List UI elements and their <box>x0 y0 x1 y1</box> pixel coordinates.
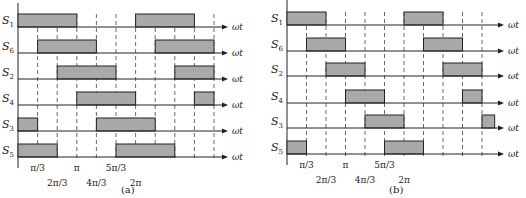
phase-tick-label: 2π/3 <box>47 178 68 188</box>
conduction-pulse <box>175 66 214 79</box>
arrow-icon <box>498 101 504 106</box>
conduction-pulse <box>482 115 495 128</box>
waveform-row-s4: ωtS4 <box>2 92 243 110</box>
switch-label: S3 <box>271 115 283 130</box>
conduction-pulse <box>18 144 57 157</box>
switch-label: S4 <box>271 90 284 105</box>
arrow-icon <box>498 126 504 131</box>
conduction-pulse <box>116 144 175 157</box>
omega-t-label: ωt <box>508 46 519 56</box>
panel-b-120-degree-conduction: ωtS1ωtS6ωtS2ωtS4ωtS3ωtS5π/32π/3π4π/35π/3… <box>271 0 519 195</box>
conduction-pulse <box>57 66 116 79</box>
omega-t-label: ωt <box>508 149 519 159</box>
phase-tick-label: π/3 <box>30 163 45 173</box>
omega-t-label: ωt <box>508 71 519 81</box>
switch-label: S6 <box>2 40 15 55</box>
conduction-pulse <box>326 63 365 76</box>
panel-caption: (b) <box>389 184 403 195</box>
conduction-pulse <box>287 12 326 25</box>
omega-t-label: ωt <box>508 123 519 133</box>
conduction-pulse <box>194 92 214 105</box>
switch-label: S1 <box>2 14 14 29</box>
waveform-row-s3: ωtS3 <box>2 118 243 136</box>
arrow-icon <box>222 25 228 30</box>
conduction-pulse <box>136 14 195 27</box>
omega-t-label: ωt <box>508 20 519 30</box>
switch-label: S6 <box>271 38 284 53</box>
conduction-pulse <box>443 63 482 76</box>
conduction-pulse <box>287 141 307 154</box>
panel-a-180-degree-conduction: ωtS1ωtS6ωtS2ωtS4ωtS3ωtS5π/32π/3π4π/35π/3… <box>2 3 243 195</box>
conduction-pulse <box>463 90 483 103</box>
switch-label: S2 <box>271 63 283 78</box>
switch-label: S4 <box>2 92 15 107</box>
arrow-icon <box>498 152 504 157</box>
arrow-icon <box>498 74 504 79</box>
conduction-pulse <box>18 14 77 27</box>
omega-t-label: ωt <box>232 152 243 162</box>
conduction-pulse <box>424 38 463 51</box>
omega-t-label: ωt <box>232 22 243 32</box>
conduction-pulse <box>96 118 155 131</box>
waveform-row-s5: ωtS5 <box>2 144 243 162</box>
phase-tick-label: π <box>74 163 80 173</box>
waveform-row-s1: ωtS1 <box>2 14 243 32</box>
conduction-pulse <box>365 115 404 128</box>
phase-tick-label: 4π/3 <box>355 175 376 185</box>
conduction-pulse <box>346 90 385 103</box>
arrow-icon <box>498 23 504 28</box>
phase-tick-label: 5π/3 <box>374 160 395 170</box>
phase-tick-label: 2π/3 <box>316 175 337 185</box>
waveform-row-s3: ωtS3 <box>271 115 519 133</box>
switch-label: S5 <box>2 144 14 159</box>
phase-tick-label: π <box>343 160 349 170</box>
switching-diagram: ωtS1ωtS6ωtS2ωtS4ωtS3ωtS5π/32π/3π4π/35π/3… <box>0 0 526 198</box>
phase-tick-label: π/3 <box>299 160 314 170</box>
waveform-row-s6: ωtS6 <box>2 40 243 58</box>
arrow-icon <box>222 155 228 160</box>
omega-t-label: ωt <box>508 98 519 108</box>
arrow-icon <box>498 49 504 54</box>
switch-label: S5 <box>271 141 283 156</box>
switch-label: S3 <box>2 118 14 133</box>
phase-tick-label: 4π/3 <box>86 178 107 188</box>
waveform-row-s2: ωtS2 <box>2 66 243 84</box>
conduction-pulse <box>18 118 38 131</box>
arrow-icon <box>222 51 228 56</box>
arrow-icon <box>222 77 228 82</box>
conduction-pulse <box>385 141 424 154</box>
conduction-pulse <box>155 40 214 53</box>
waveform-row-s5: ωtS5 <box>271 141 519 159</box>
omega-t-label: ωt <box>232 100 243 110</box>
conduction-pulse <box>307 38 346 51</box>
phase-tick-label: 5π/3 <box>106 163 127 173</box>
panel-caption: (a) <box>121 184 135 195</box>
switch-label: S1 <box>271 12 283 27</box>
omega-t-label: ωt <box>232 48 243 58</box>
omega-t-label: ωt <box>232 126 243 136</box>
conduction-pulse <box>77 92 136 105</box>
arrow-icon <box>222 103 228 108</box>
omega-t-label: ωt <box>232 74 243 84</box>
conduction-pulse <box>38 40 97 53</box>
conduction-pulse <box>404 12 443 25</box>
switch-label: S2 <box>2 66 14 81</box>
arrow-icon <box>222 129 228 134</box>
